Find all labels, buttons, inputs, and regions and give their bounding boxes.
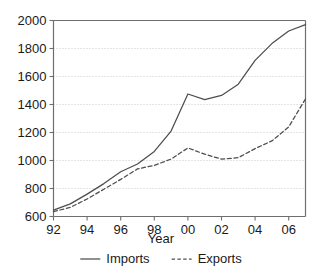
- y-tick-label-1800: 1800: [18, 41, 47, 56]
- x-tick-label-2000: 00: [181, 222, 195, 237]
- y-tick-label-800: 800: [25, 181, 47, 196]
- line-chart: 9294969800020406 60080010001200140016001…: [0, 0, 321, 278]
- x-tick-label-2006: 06: [281, 222, 295, 237]
- x-tick-label-2004: 04: [248, 222, 262, 237]
- legend-label-exports: Exports: [198, 251, 243, 266]
- legend-label-imports: Imports: [106, 251, 150, 266]
- x-tick-label-1996: 96: [113, 222, 127, 237]
- x-tick-label-1992: 92: [46, 222, 60, 237]
- y-tick-label-600: 600: [25, 209, 47, 224]
- x-tick-label-1994: 94: [80, 222, 94, 237]
- y-tick-label-1200: 1200: [18, 125, 47, 140]
- y-tick-label-1400: 1400: [18, 97, 47, 112]
- chart-container: 9294969800020406 60080010001200140016001…: [0, 0, 321, 278]
- y-tick-label-1000: 1000: [18, 153, 47, 168]
- y-tick-label-2000: 2000: [18, 13, 47, 28]
- x-tick-label-2002: 02: [214, 222, 228, 237]
- x-axis-title: Year: [148, 231, 175, 246]
- y-tick-label-1600: 1600: [18, 69, 47, 84]
